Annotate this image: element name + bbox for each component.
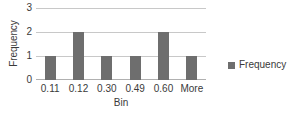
bar[interactable] bbox=[158, 32, 169, 80]
x-tick-label: More bbox=[178, 83, 206, 95]
bar-slot bbox=[178, 8, 206, 80]
x-tick-label: 0.11 bbox=[36, 83, 64, 95]
bar-slot bbox=[64, 8, 92, 80]
legend-entry-label: Frequency bbox=[239, 60, 286, 70]
x-tick-label: 0.49 bbox=[121, 83, 149, 95]
bar-series bbox=[36, 8, 206, 80]
plot-area bbox=[36, 8, 206, 80]
bar-slot bbox=[121, 8, 149, 80]
y-tick-label: 1 bbox=[18, 51, 32, 61]
y-tick-label: 3 bbox=[18, 3, 32, 13]
bar-slot bbox=[36, 8, 64, 80]
x-tick-label: 0.60 bbox=[149, 83, 177, 95]
legend-swatch-icon bbox=[228, 62, 235, 69]
bar[interactable] bbox=[101, 56, 112, 80]
y-tick-label: 2 bbox=[18, 27, 32, 37]
x-axis-title: Bin bbox=[36, 97, 206, 108]
x-axis-tick-labels: 0.11 0.12 0.30 0.49 0.60 More bbox=[36, 83, 206, 95]
bar[interactable] bbox=[73, 32, 84, 80]
y-axis-tick-labels: 3 2 1 0 bbox=[18, 8, 32, 80]
histogram-chart: Frequency 3 2 1 0 bbox=[0, 0, 299, 116]
y-axis-title: Frequency bbox=[8, 5, 19, 83]
bar-slot bbox=[93, 8, 121, 80]
y-tick-label: 0 bbox=[18, 75, 32, 85]
x-tick-label: 0.12 bbox=[64, 83, 92, 95]
bar[interactable] bbox=[186, 56, 197, 80]
bar[interactable] bbox=[45, 56, 56, 80]
bar[interactable] bbox=[130, 56, 141, 80]
x-tick-label: 0.30 bbox=[93, 83, 121, 95]
bar-slot bbox=[149, 8, 177, 80]
legend: Frequency bbox=[228, 60, 286, 70]
